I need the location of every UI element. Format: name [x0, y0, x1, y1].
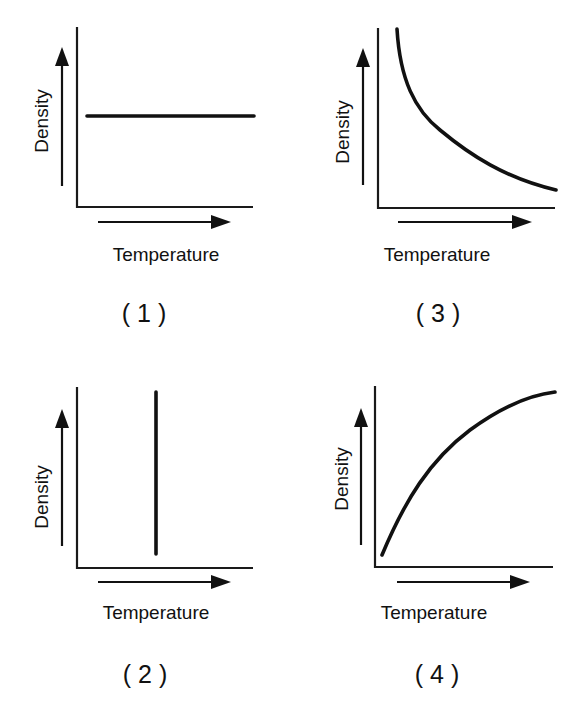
x-direction-arrow-icon — [98, 575, 231, 589]
panel-label: ( 3 ) — [416, 299, 460, 327]
y-axis-label: Density — [332, 100, 353, 164]
x-axis-label: Temperature — [103, 602, 210, 623]
y-direction-arrow-icon — [356, 48, 370, 185]
data-curve — [397, 29, 556, 190]
panel-label: ( 4 ) — [415, 660, 459, 688]
x-direction-arrow-icon — [397, 575, 530, 589]
y-axis-label: Density — [31, 465, 52, 529]
x-axis-label: Temperature — [113, 244, 220, 265]
panel-label: ( 2 ) — [123, 660, 167, 688]
y-direction-arrow-icon — [55, 409, 69, 546]
y-axis-label: Density — [31, 89, 52, 153]
panel-label: ( 1 ) — [122, 299, 166, 327]
panel-1: Density Temperature ( 1 ) — [31, 27, 254, 327]
x-direction-arrow-icon — [98, 215, 231, 229]
panel-2: Density Temperature ( 2 ) — [31, 387, 253, 688]
figure-density-vs-temperature: Density Temperature ( 1 ) Density Temper… — [0, 0, 581, 705]
panel-3: Density Temperature ( 3 ) — [332, 28, 556, 327]
x-axis-label: Temperature — [381, 602, 488, 623]
x-axis-label: Temperature — [384, 244, 491, 265]
y-direction-arrow-icon — [55, 47, 69, 186]
data-curve — [382, 392, 555, 555]
x-direction-arrow-icon — [398, 215, 532, 229]
y-direction-arrow-icon — [354, 408, 368, 545]
panel-4: Density Temperature ( 4 ) — [331, 386, 555, 688]
y-axis-label: Density — [331, 447, 352, 511]
